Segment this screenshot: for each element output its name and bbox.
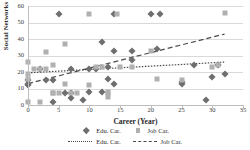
data-point-square [118,65,123,70]
data-point-square [210,65,215,70]
trendline-dashed [28,34,225,84]
x-tick-label: 35 [240,107,247,114]
data-point-square [216,63,221,68]
legend-marker-dashed-line-icon [133,138,157,145]
x-tick-label: 5 [57,107,60,114]
legend-item[interactable]: Job Car. [133,127,169,134]
legend-item[interactable]: Edu. Car. [68,138,120,145]
data-point-square [50,91,55,96]
legend-label: Job Car. [161,138,182,145]
data-point-square [32,66,37,71]
data-point-square [44,66,49,71]
legend: Edu. Car.Job Car. Edu. Car.Job Car. [0,125,250,147]
data-point-square [44,50,49,55]
y-tick-label: 40 [18,36,25,43]
data-point-square [155,76,160,81]
data-point-square [69,91,74,96]
legend-marker-square-icon [133,127,144,134]
data-point-square [105,94,110,99]
legend-marker-dotted-line-icon [68,138,92,145]
data-point-square [38,99,43,104]
x-axis-tick-labels: 05101520253035 [28,107,243,117]
legend-label: Edu. Car. [96,127,120,134]
scatter-chart: Social Networks 0102030405060 0510152025… [0,0,250,150]
y-tick-label: 0 [21,102,24,109]
data-point-square [93,65,98,70]
y-tick-label: 60 [18,3,25,10]
legend-marker-diamond-icon [81,127,92,134]
data-point-square [179,78,184,83]
y-axis-line [28,6,29,105]
data-point-square [115,12,120,17]
x-tick-label: 0 [26,107,29,114]
legend-row-lines: Edu. Car.Job Car. [0,136,250,147]
data-point-square [87,83,92,88]
legend-label: Job Car. [148,127,169,134]
legend-item[interactable]: Job Car. [133,138,182,145]
y-tick-label: 50 [18,19,25,26]
data-point-square [87,12,92,17]
data-point-square [148,48,153,53]
x-tick-label: 10 [86,107,93,114]
plot-area [28,6,243,105]
data-point-square [56,91,61,96]
y-axis-tick-labels: 0102030405060 [0,0,28,105]
data-point-square [62,41,67,46]
x-tick-label: 15 [117,107,124,114]
legend-row-markers: Edu. Car.Job Car. [0,125,250,136]
data-point-square [62,81,67,86]
data-point-square [222,10,227,15]
x-tick-label: 20 [148,107,155,114]
legend-label: Edu. Car. [96,138,120,145]
data-point-square [50,63,55,68]
y-tick-label: 10 [18,85,25,92]
data-point-square [99,65,104,70]
legend-item[interactable]: Edu. Car. [81,127,120,134]
data-point-square [38,66,43,71]
data-point-square [130,65,135,70]
y-tick-label: 30 [18,52,25,59]
x-tick-label: 25 [178,107,185,114]
x-tick-label: 30 [209,107,216,114]
data-point-square [75,91,80,96]
y-tick-label: 20 [18,69,25,76]
